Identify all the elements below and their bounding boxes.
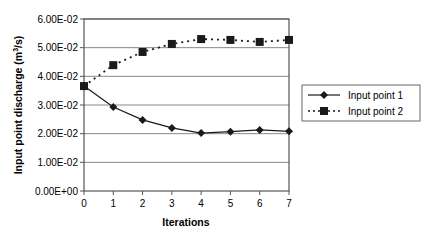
square-marker	[80, 82, 88, 90]
x-tick-label: 3	[169, 198, 175, 209]
square-marker	[109, 61, 117, 69]
series-2	[80, 35, 293, 90]
diamond-marker	[256, 126, 264, 134]
square-marker	[168, 40, 176, 48]
square-marker-icon	[320, 107, 328, 115]
y-tick-label: 4.00E-02	[37, 71, 78, 82]
square-marker	[139, 48, 147, 56]
diamond-marker	[109, 103, 117, 111]
series-1	[80, 82, 293, 137]
svg-text:Input point 1: Input point 1	[348, 90, 403, 101]
square-marker	[226, 36, 234, 44]
diamond-marker	[226, 128, 234, 136]
svg-text:Input point 2: Input point 2	[348, 106, 403, 117]
y-tick-label: 0.00E+00	[35, 186, 79, 197]
x-tick-label: 4	[198, 198, 204, 209]
y-tick-label: 3.00E-02	[37, 100, 78, 111]
x-tick-label: 7	[286, 198, 292, 209]
square-marker	[197, 35, 205, 43]
y-axis-ticks: 0.00E+001.00E-022.00E-023.00E-024.00E-02…	[35, 14, 84, 197]
diamond-marker	[285, 127, 293, 135]
x-tick-label: 6	[257, 198, 263, 209]
x-tick-label: 5	[228, 198, 234, 209]
x-axis-title: Iterations	[162, 216, 209, 228]
data-series	[80, 35, 293, 137]
x-axis-ticks: 01234567	[81, 191, 292, 209]
y-tick-label: 1.00E-02	[37, 157, 78, 168]
diamond-marker	[139, 116, 147, 124]
square-marker	[285, 36, 293, 44]
y-tick-label: 6.00E-02	[37, 14, 78, 25]
x-tick-label: 0	[81, 198, 87, 209]
y-tick-label: 5.00E-02	[37, 42, 78, 53]
square-marker	[256, 38, 264, 46]
legend: Input point 1 Input point 2	[302, 85, 420, 121]
diamond-marker	[168, 124, 176, 132]
y-tick-label: 2.00E-02	[37, 128, 78, 139]
line-chart: 0.00E+001.00E-022.00E-023.00E-024.00E-02…	[0, 0, 423, 237]
x-tick-label: 2	[140, 198, 146, 209]
x-tick-label: 1	[111, 198, 117, 209]
diamond-marker	[197, 129, 205, 137]
y-axis-title: Input point discharge (m3/s)	[12, 36, 24, 175]
